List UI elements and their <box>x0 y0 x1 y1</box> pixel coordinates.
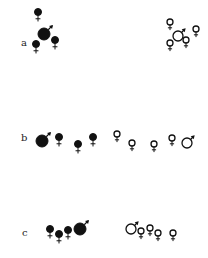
female-symbol-open-icon <box>169 135 175 146</box>
sex-symbols-layer <box>0 0 208 258</box>
female-symbol-filled-icon <box>56 134 63 147</box>
female-symbol-open-icon <box>147 225 153 236</box>
female-symbol-open-icon <box>193 26 199 37</box>
female-symbol-open-icon <box>167 19 173 30</box>
female-symbol-filled-icon <box>35 9 42 22</box>
female-symbol-open-icon <box>151 141 157 152</box>
female-symbol-open-icon <box>129 140 135 151</box>
female-symbol-open-icon <box>114 131 120 142</box>
male-symbol-open-icon <box>126 221 139 234</box>
female-symbol-open-icon <box>138 228 144 239</box>
female-symbol-filled-icon <box>52 37 59 50</box>
female-symbol-filled-icon <box>75 141 82 154</box>
female-symbol-open-icon <box>155 230 161 241</box>
female-symbol-filled-icon <box>90 134 97 147</box>
female-symbol-filled-icon <box>56 231 63 244</box>
male-symbol-filled-icon <box>36 132 51 147</box>
female-symbol-filled-icon <box>65 227 72 240</box>
female-symbol-open-icon <box>170 230 176 241</box>
male-symbol-filled-icon <box>38 25 53 40</box>
male-symbol-open-icon <box>182 135 195 148</box>
female-symbol-open-icon <box>183 37 189 48</box>
female-symbol-filled-icon <box>33 41 40 54</box>
female-symbol-filled-icon <box>47 226 54 239</box>
male-symbol-filled-icon <box>74 220 89 235</box>
female-symbol-open-icon <box>167 40 173 51</box>
